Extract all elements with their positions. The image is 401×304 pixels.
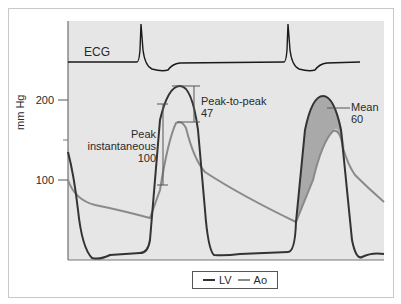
ecg-trace bbox=[68, 24, 360, 71]
peak-instantaneous-label-line2: instantaneous bbox=[82, 140, 156, 152]
peak-to-peak-label: Peak-to-peak bbox=[201, 95, 266, 107]
legend-label-ao: Ao bbox=[254, 274, 267, 286]
tick-label-100: 100 bbox=[24, 174, 54, 186]
mean-label: Mean bbox=[351, 101, 379, 113]
legend-item-lv: LV bbox=[203, 274, 232, 286]
ecg-label: ECG bbox=[84, 46, 110, 58]
peak-instantaneous-label-line1: Peak bbox=[120, 128, 156, 140]
pressure-chart bbox=[0, 0, 401, 304]
mean-value: 60 bbox=[351, 113, 363, 125]
lv-swatch-icon bbox=[203, 279, 215, 281]
tick-label-200: 200 bbox=[24, 94, 54, 106]
lv-trace bbox=[68, 86, 384, 259]
peak-to-peak-value: 47 bbox=[201, 107, 213, 119]
legend: LV Ao bbox=[192, 271, 278, 289]
ao-swatch-icon bbox=[238, 279, 250, 281]
legend-label-lv: LV bbox=[219, 274, 232, 286]
legend-item-ao: Ao bbox=[238, 274, 267, 286]
ao-trace bbox=[68, 122, 384, 222]
peak-instantaneous-value: 100 bbox=[120, 152, 156, 164]
